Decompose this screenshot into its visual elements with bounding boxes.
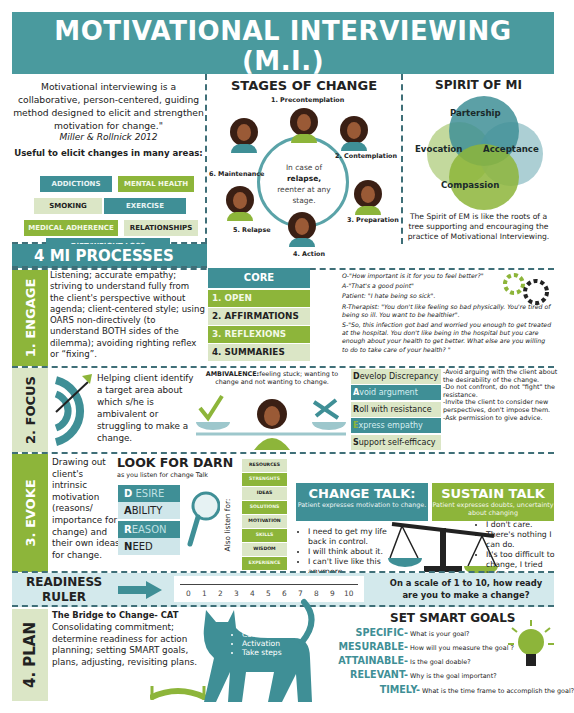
change-talk-box: CHANGE TALK: Patient expresses motivatio… [296, 483, 428, 521]
page-title: MOTIVATIONAL INTERVIEWING (M.I.) [12, 12, 554, 76]
dares-rest: void argument [359, 388, 418, 397]
ambivalence-bold: AMBIVALENCE: [206, 370, 259, 378]
darn-title: LOOK FOR DARN [117, 455, 233, 470]
ruler-tick: 0 [186, 589, 191, 598]
smart-key: RELEVANT- [300, 669, 408, 680]
divider [12, 452, 554, 454]
dares-avoid-argument: Avoid argument [351, 385, 441, 400]
target-icon [50, 372, 94, 448]
ruler-title-2: RULER [42, 590, 86, 604]
ambivalence-text: AMBIVALENCE:feeling stuck; wanting to ch… [198, 370, 346, 386]
header-banner: MOTIVATIONAL INTERVIEWING (M.I.) Things … [12, 12, 554, 74]
dares-express-empathy: Express empathy [351, 418, 441, 433]
spirit-partnership: Partership [450, 108, 501, 118]
dares-rest: evelop Discrepancy [360, 372, 438, 381]
relapse-note: In case ofrelapse,reenter at any stage. [269, 162, 339, 206]
ruler-tick: 6 [282, 589, 287, 598]
dares-develop-discrepancy: Develop Discrepancy [351, 369, 441, 384]
engage-label: 1. ENGAGE [12, 270, 48, 366]
intro-quote: Motivational interviewing is a collabora… [12, 80, 205, 132]
ruler-tick: 5 [266, 589, 271, 598]
stage-precontemplation: 1. Precontemplation [271, 96, 344, 104]
ruler-tick: 9 [330, 589, 335, 598]
tag-relationships: RELATIONSHIPS [124, 220, 198, 236]
spirit-of-mi: SPIRIT OF MI Partership Evocation Accept… [403, 74, 554, 244]
ruler-tick: 1 [202, 589, 207, 598]
spirit-acceptance: Acceptance [483, 144, 539, 154]
person-icon [225, 186, 255, 220]
stage-contemplation: 2. Contemplation [335, 152, 397, 160]
dares-rest: upport self-efficacy [359, 438, 436, 447]
plan-label: 4. PLAN [12, 609, 48, 701]
smart-question: What is the time frame to accomplish the… [422, 687, 574, 695]
engage-label-text: 1. ENGAGE [23, 279, 38, 358]
person-icon [353, 180, 383, 214]
dares-letter: D [353, 372, 360, 381]
ruler-tick: 3 [234, 589, 239, 598]
evoke-label-text: 3. EVOKE [23, 479, 38, 546]
plan-label-text: 4. PLAN [21, 622, 39, 688]
sustain-talk-item: I don't care. [486, 520, 558, 530]
stages-of-change: STAGES OF CHANGE 1. Precontemplation 2. … [207, 74, 403, 244]
stage-preparation: 3. Preparation [347, 216, 399, 224]
tag-exercise: EXERCISE [104, 198, 186, 214]
tag-mental-health: MENTAL HEALTH [118, 176, 194, 192]
also-listen-text: Also listen for: [223, 499, 232, 552]
example-summary: S-"So, this infection got bad and worrie… [342, 321, 552, 354]
oars-affirmations: 2. AFFIRMATIONS [208, 308, 310, 325]
engage-text: Listening; accurate empathy; striving to… [50, 270, 205, 360]
listen-tag: MOTIVATION [242, 515, 287, 528]
smart-key: MESURABLE- [300, 641, 408, 652]
spirit-title: SPIRIT OF MI [403, 78, 554, 92]
smart-timely: TIMELY- What is the time frame to accomp… [300, 684, 562, 695]
ruler-tick: 4 [250, 589, 255, 598]
intro-citation: Miller & Rollnick 2012 [12, 132, 205, 142]
darn-need: NEED [118, 538, 180, 555]
ruler-tick: 8 [314, 589, 319, 598]
sustain-talk-sub: Patient expresses doubts, uncertainty ab… [432, 501, 554, 517]
stage-action: 4. Action [293, 250, 325, 258]
tag-medical-adherence: MEDICAL ADHERENCE [24, 220, 118, 236]
example-affirm: A-"That's a good point" [342, 282, 472, 290]
darn-letter: R [124, 524, 132, 535]
listen-tag: EXPERIENCE [242, 557, 287, 570]
arrow-right-icon [118, 581, 162, 599]
spirit-description: The Spirit of EM is like the roots of a … [403, 212, 554, 242]
evoke-label: 3. EVOKE [12, 454, 48, 572]
ruler-tick: 2 [218, 589, 223, 598]
stages-title: STAGES OF CHANGE [207, 78, 401, 93]
change-talk-item: I need to get my life back in control. [308, 527, 398, 547]
darn-letter: A [124, 505, 132, 516]
darn-desire: D ESIRE [118, 485, 180, 502]
ambivalence-scale-icon [196, 392, 346, 450]
sustain-talk-box: SUSTAIN TALK Patient expresses doubts, u… [432, 483, 554, 521]
ruler-question: On a scale of 1 to 10, how ready are you… [382, 577, 550, 601]
bridge-title: The Bridge to Change- CAT [52, 610, 202, 622]
change-talk-list: I need to get my life back in control. I… [298, 527, 398, 577]
sustain-talk-title: SUSTAIN TALK [432, 486, 554, 501]
dares-rest: xpress empathy [358, 421, 422, 430]
oars-open-questions: 1. OPEN QUESTIONS [208, 290, 310, 307]
lightbulb-icon [508, 618, 554, 674]
plan-text: The Bridge to Change- CAT Consolidating … [52, 610, 202, 669]
also-listen-label: Also listen for: [220, 487, 234, 563]
person-icon [289, 108, 319, 142]
tag-addictions: ADDICTIONS [40, 176, 112, 192]
spirit-evocation: Evocation [415, 144, 462, 154]
change-talk-item: I will think about it. [308, 547, 398, 557]
change-talk-sub: Patient expresses motivation to change. [296, 501, 428, 509]
dares-support-self-efficacy: Support self-efficacy [351, 435, 441, 450]
smart-goals-title: SET SMART GOALS [390, 611, 515, 625]
smart-key: TIMELY- [300, 684, 420, 695]
smart-key: ATTAINABLE- [300, 655, 408, 666]
note-text: In case of [286, 163, 322, 172]
note-text: reenter at any stage. [277, 185, 331, 205]
darn-reason: REASON [118, 521, 180, 538]
spirit-compassion: Compassion [441, 180, 499, 190]
stage-maintenance: 6. Maintenance [209, 170, 264, 178]
focus-notes: -Avoid arguing with the client about the… [443, 369, 559, 422]
listen-tag: IDEAS [242, 487, 287, 500]
smart-question: How will you measure the goal ? [410, 644, 514, 652]
person-icon [229, 118, 259, 152]
person-icon [287, 212, 317, 246]
